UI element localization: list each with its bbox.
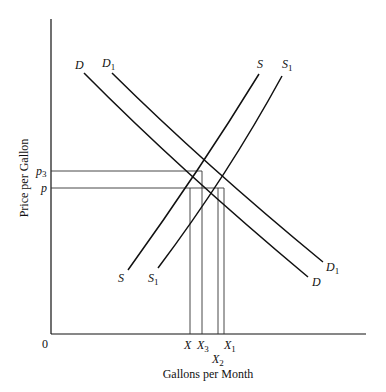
quantity-label-x: X bbox=[183, 338, 192, 352]
label-s-top: S bbox=[257, 57, 263, 71]
demand-curve-d1 bbox=[112, 73, 323, 262]
demand-curve-d bbox=[84, 73, 308, 277]
label-s1-top: S1 bbox=[282, 57, 293, 73]
label-s1-bottom: S1 bbox=[148, 271, 159, 287]
label-d-top: D bbox=[74, 58, 84, 72]
label-s-bottom: S bbox=[118, 271, 124, 285]
quantity-label-x3: X3 bbox=[196, 338, 209, 354]
label-d-right: D bbox=[311, 275, 321, 289]
y-axis-title: Price per Gallon bbox=[17, 139, 31, 218]
label-d1-right: D1 bbox=[325, 260, 339, 276]
supply-curve-s bbox=[128, 74, 259, 270]
quantity-label-x2: X2 bbox=[211, 352, 224, 368]
price-label-p: p bbox=[40, 181, 47, 195]
label-d1-top: D1 bbox=[101, 56, 115, 72]
quantity-label-x1: X1 bbox=[223, 338, 236, 354]
price-label-p3: p3 bbox=[35, 164, 47, 179]
origin-label: 0 bbox=[42, 337, 48, 351]
x-axis-title: Gallons per Month bbox=[163, 367, 254, 381]
supply-demand-diagram: D D1 S S1 S S1 D1 D p3 p X X3 X2 X1 0 Ga… bbox=[0, 0, 386, 392]
